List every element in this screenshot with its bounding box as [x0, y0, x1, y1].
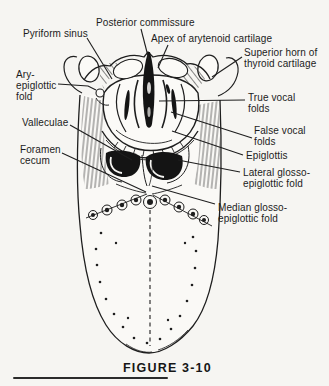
leader-ary-epiglottic	[58, 84, 96, 90]
label-posterior-commissure: Posterior commissure	[96, 17, 195, 28]
label-ary-epiglottic-fold: Ary- epiglottic fold	[16, 69, 56, 102]
label-superior-horn-of-thyroid-cartilage: Superior horn of thyroid cartilage	[244, 47, 317, 69]
label-valleculae: Valleculae	[22, 117, 68, 128]
label-true-vocal-folds: True vocal folds	[248, 92, 295, 114]
label-median-glosso-epiglottic-fold: Median glosso- epiglottic fold	[218, 202, 287, 224]
caption-rule	[13, 377, 168, 379]
figure-caption: FIGURE 3-10	[123, 361, 212, 375]
label-false-vocal-folds: False vocal folds	[254, 125, 306, 147]
figure-3-10: Pyriform sinus Posterior commissure Apex…	[0, 0, 329, 386]
label-pyriform-sinus: Pyriform sinus	[23, 28, 88, 39]
label-apex-of-arytenoid-cartilage: Apex of arytenoid cartilage	[151, 33, 272, 44]
label-epiglottis: Epiglottis	[246, 150, 288, 161]
label-lateral-glosso-epiglottic-fold: Lateral glosso- epiglottic fold	[243, 167, 310, 189]
label-foramen-cecum: Foramen cecum	[20, 144, 61, 166]
